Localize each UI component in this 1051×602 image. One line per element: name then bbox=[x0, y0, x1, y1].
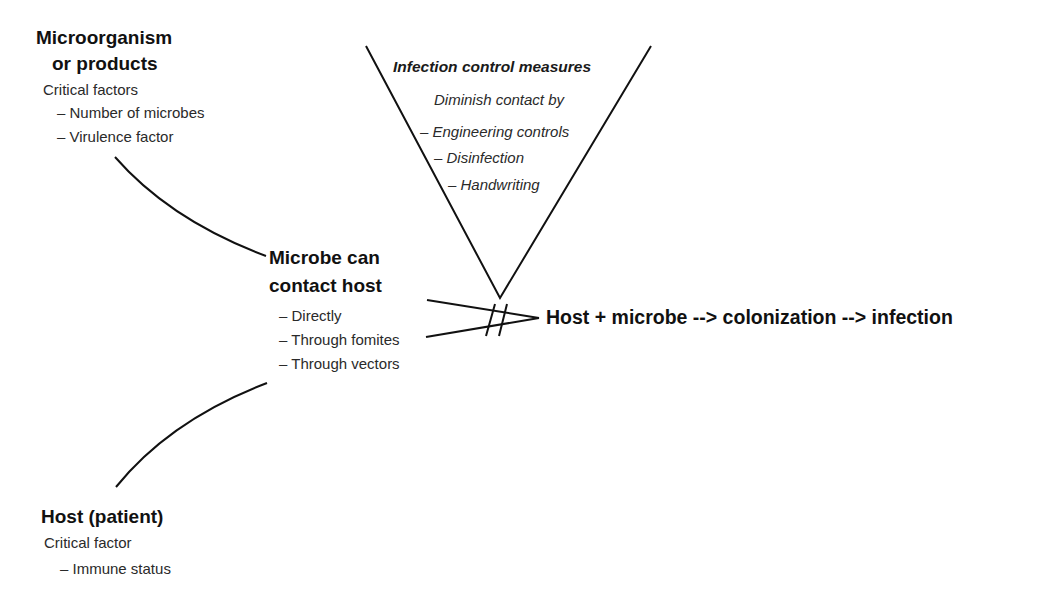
infection-control-title: Infection control measures bbox=[393, 58, 591, 76]
host-title: Host (patient) bbox=[41, 505, 163, 529]
microorganism-item: – Virulence factor bbox=[57, 127, 173, 147]
contact-item: – Through vectors bbox=[279, 354, 400, 374]
block-mark-icon bbox=[486, 304, 507, 336]
contact-line-bottom bbox=[426, 318, 539, 337]
host-subtitle: Critical factor bbox=[44, 533, 132, 553]
infection-control-item: – Handwriting bbox=[448, 175, 540, 195]
outcome-text: Host + microbe --> colonization --> infe… bbox=[546, 305, 953, 329]
curve-microorganism-to-contact bbox=[115, 157, 266, 256]
infection-control-subtitle: Diminish contact by bbox=[434, 90, 564, 110]
curve-host-to-contact bbox=[116, 383, 267, 487]
host-item: – Immune status bbox=[60, 559, 171, 579]
microorganism-title-line2: or products bbox=[52, 52, 158, 76]
contact-item: – Directly bbox=[279, 306, 342, 326]
contact-title-line2: contact host bbox=[269, 274, 382, 298]
infection-control-item: – Engineering controls bbox=[420, 122, 569, 142]
contact-title-line1: Microbe can bbox=[269, 246, 380, 270]
microorganism-item: – Number of microbes bbox=[57, 103, 205, 123]
microorganism-subtitle: Critical factors bbox=[43, 80, 138, 100]
infection-control-item: – Disinfection bbox=[434, 148, 524, 168]
contact-line-top bbox=[427, 300, 539, 318]
infection-control-funnel bbox=[366, 46, 651, 298]
microorganism-title-line1: Microorganism bbox=[36, 26, 172, 50]
contact-item: – Through fomites bbox=[279, 330, 400, 350]
